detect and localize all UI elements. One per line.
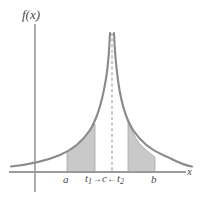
x-axis-label: x (187, 166, 192, 177)
arrow-right-icon: → (92, 173, 102, 184)
y-axis-label: f(x) (22, 8, 40, 21)
interval-limit-labels: t1→c←t2 (85, 173, 124, 186)
arrow-left-icon: ← (107, 173, 117, 184)
figure-canvas (0, 0, 201, 201)
curve-right-branch (114, 33, 192, 167)
tick-label-b: b (151, 174, 157, 185)
tick-label-a: a (63, 174, 69, 185)
improper-integral-figure: f(x) x a b t1→c←t2 (0, 0, 201, 201)
tick-label-t2-subscript: 2 (120, 177, 124, 186)
